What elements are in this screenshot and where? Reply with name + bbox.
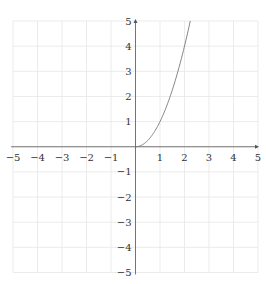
y-tick-label: 1 xyxy=(125,116,131,127)
x-tick-label: −4 xyxy=(30,152,45,163)
function-plot: −5−4−3−2−112345 54321−1−2−3−4−5 xyxy=(0,0,266,284)
x-tick-label: 1 xyxy=(157,152,163,163)
curve-series xyxy=(136,21,191,147)
x-tick-label: 3 xyxy=(206,152,212,163)
y-tick-label: −3 xyxy=(117,217,132,228)
x-tick-label: −1 xyxy=(104,152,119,163)
y-tick-label: −5 xyxy=(117,267,132,278)
axes xyxy=(11,19,259,275)
x-tick-label: −5 xyxy=(6,152,21,163)
y-tick-label: −1 xyxy=(117,166,132,177)
y-tick-label: −2 xyxy=(117,192,132,203)
x-tick-label: −2 xyxy=(79,152,94,163)
y-tick-label: 5 xyxy=(125,16,131,27)
y-tick-label: −4 xyxy=(117,242,132,253)
curve-line xyxy=(136,21,191,147)
y-tick-label: 2 xyxy=(125,91,131,102)
x-tick-label: −3 xyxy=(55,152,70,163)
x-tick-labels: −5−4−3−2−112345 xyxy=(6,152,262,163)
y-tick-label: 3 xyxy=(125,66,131,77)
x-tick-label: 2 xyxy=(181,152,187,163)
x-tick-label: 5 xyxy=(255,152,261,163)
x-tick-label: 4 xyxy=(230,152,236,163)
y-tick-label: 4 xyxy=(125,41,131,52)
